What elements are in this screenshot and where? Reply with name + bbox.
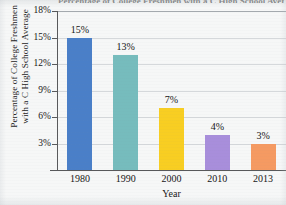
gridline (57, 11, 286, 12)
y-axis-tick-mark (52, 144, 57, 145)
x-axis-tick-label-1980: 1980 (58, 173, 102, 184)
y-axis-tick-label: 6% (23, 112, 51, 122)
x-axis-tick-label-2010: 2010 (195, 173, 239, 184)
bar-value-label-2010: 4% (197, 122, 237, 132)
y-axis-tick-label: 18% (23, 6, 51, 16)
bar-1990 (113, 55, 138, 170)
bar-value-label-2000: 7% (152, 95, 192, 105)
bar-2013 (251, 144, 276, 171)
y-axis-tick-mark (52, 117, 57, 118)
bar-2010 (205, 135, 230, 170)
y-axis-line (57, 11, 58, 171)
y-axis-tick-mark (52, 64, 57, 65)
bar-chart-screenshot: Percentage of College Freshmen with a C … (0, 0, 286, 205)
chart-title: Percentage of College Freshmen with a C … (58, 0, 284, 3)
bar-2000 (159, 108, 184, 170)
y-axis-title-line-1: Percentage of College Freshmen (9, 0, 20, 156)
bar-value-label-1990: 13% (106, 42, 146, 52)
y-axis-tick-label: 12% (23, 59, 51, 69)
y-axis-tick-label: 15% (23, 33, 51, 43)
x-axis-tick-label-2000: 2000 (150, 173, 194, 184)
y-axis-tick-mark (52, 38, 57, 39)
bar-value-label-2013: 3% (243, 131, 283, 141)
bar-1980 (67, 38, 92, 171)
x-axis-line (50, 170, 286, 171)
x-axis-tick-label-1990: 1990 (104, 173, 148, 184)
y-axis-tick-labels: 18%15%12%9%6%3% (20, 0, 51, 205)
x-axis-tick-label-2013: 2013 (241, 173, 285, 184)
y-axis-tick-label: 3% (23, 139, 51, 149)
x-axis-title: Year (57, 188, 286, 199)
y-axis-tick-mark (52, 91, 57, 92)
plot-area (57, 11, 286, 170)
y-axis-tick-label: 9% (23, 86, 51, 96)
y-axis-tick-mark (52, 11, 57, 12)
bar-value-label-1980: 15% (60, 25, 100, 35)
